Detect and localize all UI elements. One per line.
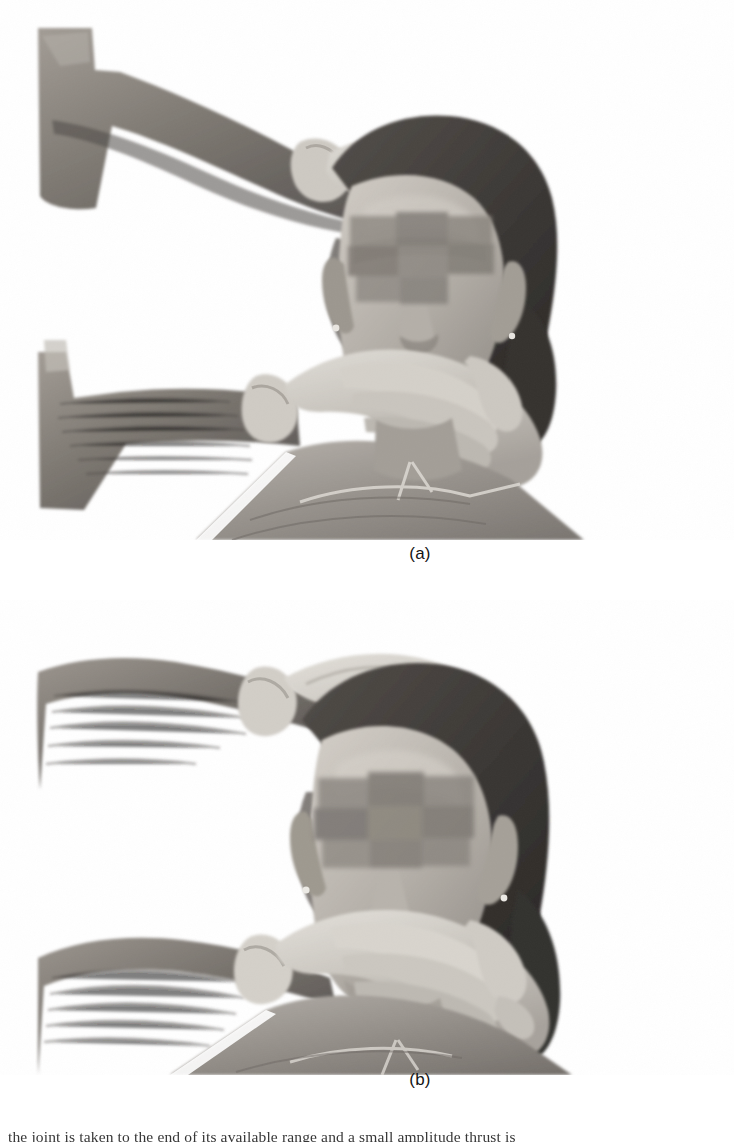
panel-a-caption-text: (a)	[409, 544, 430, 564]
figure-panel-a	[0, 0, 734, 540]
clinical-photo-a	[0, 0, 734, 540]
panel-b-caption-text: (b)	[409, 1070, 430, 1090]
cropped-body-text: the joint is taken to the end of its ava…	[0, 1130, 734, 1142]
panel-b-caption: (b)	[0, 1070, 734, 1090]
clinical-photo-b	[0, 600, 734, 1075]
figure-panel-b	[0, 600, 734, 1075]
figure-page: (a)	[0, 0, 734, 1142]
panel-a-caption: (a)	[0, 544, 734, 564]
cropped-body-text-line: the joint is taken to the end of its ava…	[8, 1130, 734, 1142]
